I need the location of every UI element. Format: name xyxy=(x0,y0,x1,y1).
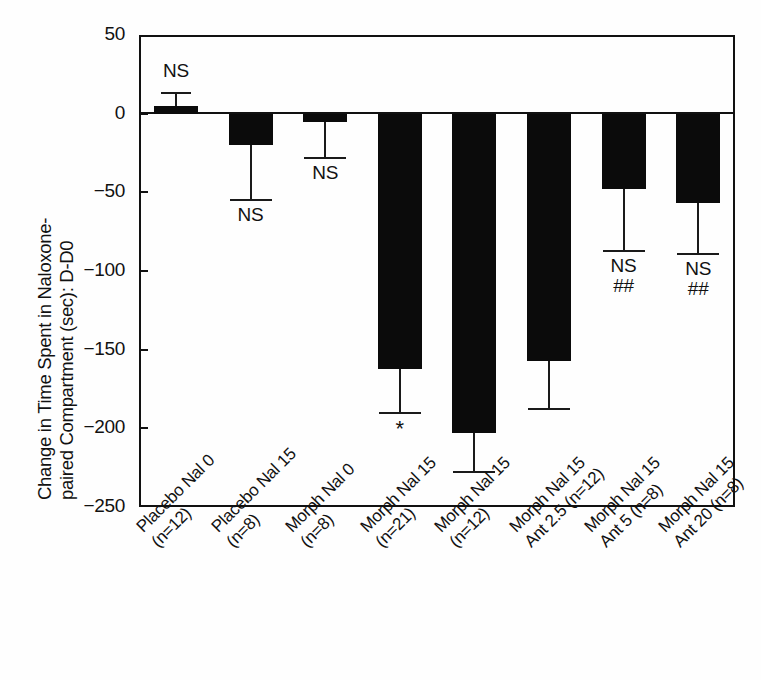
y-tick-label: −200 xyxy=(25,416,125,438)
figure-bar-chart: Change in Time Spent in Naloxone- paired… xyxy=(0,0,761,680)
error-bar-whisker xyxy=(473,433,475,472)
y-tick-label: 0 xyxy=(25,102,125,124)
error-bar-whisker xyxy=(548,361,550,410)
significance-annotation: NS xyxy=(141,61,211,82)
y-tick-label: −250 xyxy=(25,495,125,517)
bar xyxy=(378,114,422,369)
error-bar-cap xyxy=(677,253,719,255)
significance-annotation: * xyxy=(365,418,435,440)
y-tick-label: −50 xyxy=(25,180,125,202)
significance-annotation: NS xyxy=(216,205,286,226)
y-tick-label: −100 xyxy=(25,259,125,281)
bar xyxy=(676,114,720,204)
bar xyxy=(229,114,273,145)
error-bar-whisker xyxy=(324,122,326,158)
error-bar-cap xyxy=(528,408,570,410)
y-tick-label: −150 xyxy=(25,338,125,360)
error-bar-cap xyxy=(161,92,191,94)
error-bar-cap xyxy=(603,250,645,252)
bar xyxy=(527,114,571,361)
bar xyxy=(303,114,347,122)
bar xyxy=(602,114,646,190)
bar xyxy=(452,114,496,433)
error-bar-cap xyxy=(379,412,421,414)
error-bar-whisker xyxy=(697,203,699,253)
error-bar-whisker xyxy=(175,93,177,106)
error-bar-cap xyxy=(230,199,272,201)
bar xyxy=(154,106,198,114)
error-bar-whisker xyxy=(399,369,401,413)
significance-annotation: NS ## xyxy=(589,256,659,297)
y-tick-label: 50 xyxy=(25,23,125,45)
significance-annotation: NS xyxy=(290,163,360,184)
significance-annotation: NS ## xyxy=(663,259,733,300)
error-bar-cap xyxy=(304,157,346,159)
error-bar-whisker xyxy=(250,145,252,200)
error-bar-whisker xyxy=(623,189,625,250)
